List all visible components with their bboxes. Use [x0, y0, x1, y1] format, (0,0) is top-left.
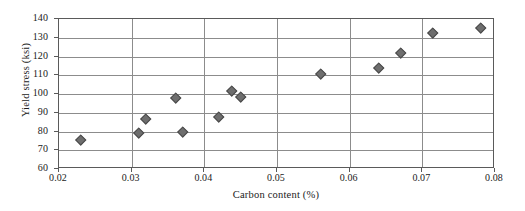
gridline-vertical: [422, 19, 423, 167]
y-axis-tick-mark: [54, 112, 58, 113]
gridline-vertical: [204, 19, 205, 167]
x-axis-tick-label: 0.08: [469, 173, 519, 183]
gridline-horizontal: [59, 150, 493, 151]
x-axis-tick-label: 0.02: [33, 173, 83, 183]
x-axis-tick-label: 0.05: [251, 173, 301, 183]
y-axis-tick-mark: [54, 74, 58, 75]
y-axis-tick-mark: [54, 131, 58, 132]
data-point-marker: [177, 126, 188, 137]
data-point-marker: [373, 62, 384, 73]
y-axis-tick-mark: [54, 93, 58, 94]
gridline-horizontal: [59, 113, 493, 114]
plot-area: [58, 18, 494, 168]
gridline-horizontal: [59, 132, 493, 133]
data-point-marker: [475, 22, 486, 33]
x-axis-tick-label: 0.06: [324, 173, 374, 183]
x-axis-title: Carbon content (%): [58, 189, 494, 200]
gridline-horizontal: [59, 38, 493, 39]
y-axis-tick-label: 60: [8, 163, 48, 173]
gridline-horizontal: [59, 75, 493, 76]
x-axis-tick-label: 0.07: [396, 173, 446, 183]
gridline-horizontal: [59, 57, 493, 58]
gridline-horizontal: [59, 94, 493, 95]
y-axis-title: Yield stress (ksi): [20, 5, 34, 155]
x-axis-tick-label: 0.03: [106, 173, 156, 183]
gridline-vertical: [132, 19, 133, 167]
data-point-marker: [141, 113, 152, 124]
y-axis-tick-mark: [54, 56, 58, 57]
y-axis-tick-mark: [54, 18, 58, 19]
gridline-vertical: [277, 19, 278, 167]
scatter-chart-figure: 60708090100110120130140 0.020.030.040.05…: [0, 0, 525, 211]
data-point-marker: [315, 68, 326, 79]
y-axis-tick-mark: [54, 149, 58, 150]
x-axis-tick-label: 0.04: [178, 173, 228, 183]
data-point-marker: [134, 127, 145, 138]
gridline-vertical: [350, 19, 351, 167]
data-point-marker: [75, 135, 86, 146]
y-axis-tick-mark: [54, 37, 58, 38]
